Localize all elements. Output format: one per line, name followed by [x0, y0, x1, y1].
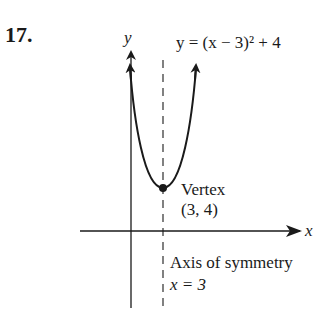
vertex-point: [159, 184, 167, 192]
vertex-coords: (3, 4): [181, 200, 225, 220]
parabola-curve: [130, 68, 196, 188]
vertex-annotation: Vertex (3, 4): [181, 180, 225, 220]
axis-of-symmetry-equation: x = 3: [170, 274, 293, 296]
axis-of-symmetry-annotation: Axis of symmetry x = 3: [170, 252, 293, 296]
x-axis-label: x: [305, 221, 313, 241]
vertex-label: Vertex: [181, 180, 225, 200]
axis-of-symmetry-label: Axis of symmetry: [170, 252, 293, 274]
